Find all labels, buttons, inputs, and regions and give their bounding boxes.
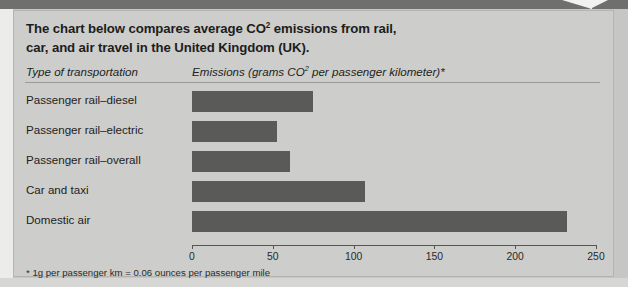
table-row: Car and taxi	[14, 177, 615, 207]
title-line2: car, and air travel in the United Kingdo…	[26, 38, 496, 57]
column-header-emissions-pre: Emissions (grams CO	[192, 65, 305, 78]
bar-car-and-taxi	[192, 181, 365, 202]
bar-container	[192, 121, 277, 142]
x-tick-label: 200	[507, 251, 524, 262]
x-tick-label: 0	[189, 251, 195, 262]
x-tick-label: 150	[426, 251, 443, 262]
row-label: Passenger rail–overall	[26, 153, 141, 166]
row-label: Passenger rail–diesel	[26, 93, 137, 106]
x-tick-mark	[354, 245, 355, 249]
bar-passenger-rail-diesel	[192, 91, 313, 112]
chart-card: The chart below compares average CO2 emi…	[13, 10, 614, 277]
table-row: Passenger rail–electric	[14, 117, 615, 147]
table-row: Passenger rail–overall	[14, 147, 615, 177]
top-decorative-band	[0, 0, 628, 9]
x-tick-mark	[596, 245, 597, 249]
bar-container	[192, 91, 313, 112]
title-line1-pre: The chart below compares average CO	[26, 21, 266, 36]
column-header-type: Type of transportation	[26, 65, 138, 78]
x-tick-mark	[515, 245, 516, 249]
page-title: The chart below compares average CO2 emi…	[26, 19, 496, 57]
chart-screenshot: The chart below compares average CO2 emi…	[0, 0, 628, 287]
bar-container	[192, 151, 290, 172]
footnote: * 1g per passenger km = 0.06 ounces per …	[26, 267, 270, 278]
title-line1-post: emissions from rail,	[270, 21, 396, 36]
column-header-emissions-post: per passenger kilometer)*	[309, 65, 445, 78]
x-tick-label: 50	[267, 251, 279, 262]
bar-container	[192, 211, 567, 232]
white-wedge-decoration	[562, 0, 592, 9]
bar-chart-plot-area: Passenger rail–diesel Passenger rail–ele…	[14, 87, 615, 245]
white-wedge-decoration-secondary	[590, 0, 608, 9]
x-tick-mark	[192, 245, 193, 249]
column-header-emissions: Emissions (grams CO2 per passenger kilom…	[192, 65, 445, 78]
x-tick-mark	[434, 245, 435, 249]
x-tick-label: 250	[587, 251, 604, 262]
table-row: Passenger rail–diesel	[14, 87, 615, 117]
row-label: Car and taxi	[26, 183, 89, 196]
bar-passenger-rail-overall	[192, 151, 290, 172]
row-label: Domestic air	[26, 213, 90, 226]
x-tick-mark	[273, 245, 274, 249]
left-margin-strip	[0, 9, 13, 287]
bar-domestic-air	[192, 211, 567, 232]
bottom-margin-strip	[0, 278, 628, 287]
x-tick-label: 100	[345, 251, 362, 262]
bar-passenger-rail-electric	[192, 121, 277, 142]
row-label: Passenger rail–electric	[26, 123, 143, 136]
bar-container	[192, 181, 365, 202]
header-divider	[25, 82, 600, 83]
x-axis-ticks: 0 50 100 150 200 250	[14, 245, 615, 267]
table-row: Domestic air	[14, 207, 615, 237]
